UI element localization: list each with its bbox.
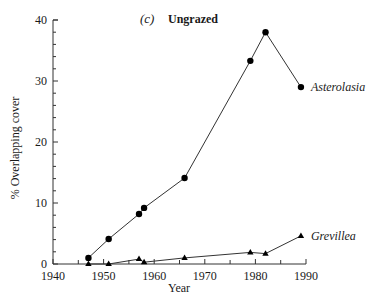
series-line (88, 236, 301, 264)
circle-marker (85, 255, 91, 261)
x-tick-label: 1940 (41, 269, 65, 283)
chart-title: Ungrazed (168, 12, 218, 26)
circle-marker (136, 211, 142, 217)
line-chart: 010203040194019501960197019801990 Astero… (0, 0, 367, 305)
circle-marker (262, 29, 268, 35)
y-axis-label: % Overlapping cover (8, 97, 22, 200)
x-tick-label: 1980 (243, 269, 267, 283)
triangle-marker (85, 261, 91, 267)
triangle-marker (181, 254, 187, 260)
y-tick-label: 10 (35, 196, 47, 210)
series-line (88, 32, 301, 258)
circle-marker (181, 175, 187, 181)
circle-marker (141, 205, 147, 211)
x-tick-label: 1950 (92, 269, 116, 283)
circle-marker (298, 84, 304, 90)
y-tick-label: 20 (35, 135, 47, 149)
series-label: Asterolasia (310, 80, 365, 94)
series-label: Grevillea (311, 229, 356, 243)
y-tick-label: 30 (35, 74, 47, 88)
x-tick-label: 1990 (294, 269, 318, 283)
panel-label: (c) (140, 11, 154, 26)
series-layer: AsterolasiaGrevillea (85, 29, 365, 266)
circle-marker (247, 58, 253, 64)
x-tick-label: 1970 (193, 269, 217, 283)
series-asterolasia: Asterolasia (85, 29, 365, 261)
y-tick-label: 40 (35, 13, 47, 27)
axes: 010203040194019501960197019801990 (35, 13, 318, 283)
triangle-marker (247, 249, 253, 255)
triangle-marker (298, 232, 304, 238)
circle-marker (105, 236, 111, 242)
x-tick-label: 1960 (142, 269, 166, 283)
triangle-marker (141, 259, 147, 265)
x-axis-label: Year (168, 281, 190, 295)
series-grevillea: Grevillea (85, 229, 356, 266)
triangle-marker (136, 256, 142, 262)
